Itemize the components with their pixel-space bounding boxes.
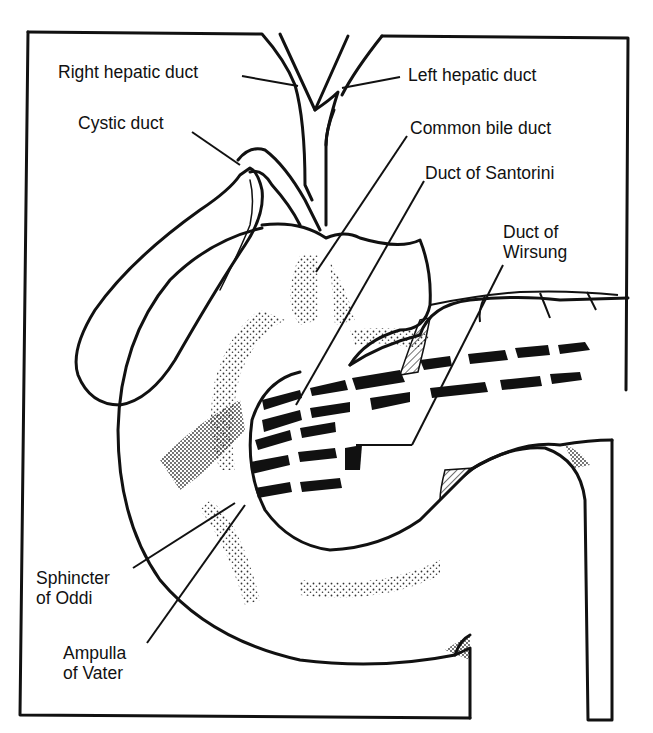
- label-duct-of-wirsung-line1: Duct of: [503, 222, 558, 242]
- diagram-drawing: [0, 0, 653, 733]
- label-duct-of-santorini: Duct of Santorini: [425, 163, 554, 183]
- label-sphincter-of-oddi-line2: of Oddi: [36, 588, 92, 608]
- duodenum-inner: [250, 372, 612, 720]
- label-common-bile-duct: Common bile duct: [410, 118, 551, 138]
- label-ampulla-of-vater-line1: Ampulla: [63, 643, 126, 663]
- frame-left: [28, 32, 312, 200]
- anatomy-diagram: Right hepatic duct Left hepatic duct Cys…: [0, 0, 653, 733]
- label-duct-of-wirsung-line2: Wirsung: [503, 242, 567, 262]
- label-right-hepatic-duct: Right hepatic duct: [58, 62, 198, 82]
- label-cystic-duct: Cystic duct: [78, 113, 164, 133]
- label-ampulla-of-vater-line2: of Vater: [63, 663, 123, 683]
- label-sphincter-of-oddi-line1: Sphincter: [36, 568, 110, 588]
- label-left-hepatic-duct: Left hepatic duct: [408, 65, 536, 85]
